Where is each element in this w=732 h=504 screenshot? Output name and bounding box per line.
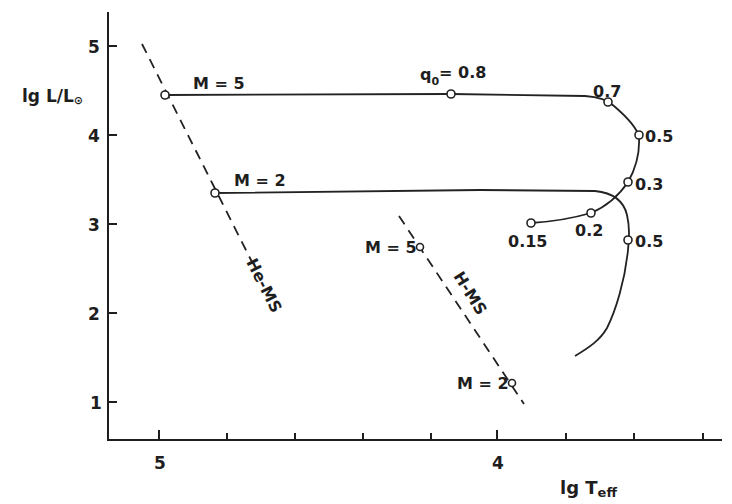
label-q0-08: q0= 0.8 bbox=[420, 63, 486, 88]
track-m5 bbox=[165, 94, 639, 223]
label-q0-03: 0.3 bbox=[635, 175, 663, 194]
point-q0-03 bbox=[624, 178, 632, 186]
x-axis-title: lg Teff bbox=[560, 477, 617, 500]
label-h-m5: M = 5 bbox=[365, 238, 417, 257]
x-tick-label-5: 5 bbox=[154, 453, 166, 473]
hr-diagram: 5 4 3 2 1 5 4 lg L/L⊙ lg Teff He-MS H-MS… bbox=[0, 0, 732, 504]
point-q0-02 bbox=[587, 209, 595, 217]
label-q0-02: 0.2 bbox=[575, 221, 603, 240]
y-tick-label-2: 2 bbox=[88, 304, 100, 324]
point-he-m5 bbox=[161, 91, 169, 99]
he-ms-label: He-MS bbox=[242, 255, 285, 316]
y-tick-label-3: 3 bbox=[88, 215, 100, 235]
label-q0-07: 0.7 bbox=[593, 82, 621, 101]
point-he-m2 bbox=[211, 189, 219, 197]
point-q0-015 bbox=[527, 219, 535, 227]
point-q0-05-upper bbox=[635, 131, 643, 139]
point-h-m2 bbox=[509, 380, 516, 387]
label-q0-015: 0.15 bbox=[508, 232, 547, 251]
sun-symbol-icon: ⊙ bbox=[74, 94, 83, 107]
y-axis-title: lg L/L⊙ bbox=[22, 86, 83, 107]
label-h-m2: M = 2 bbox=[457, 374, 509, 393]
q0-value: = 0.8 bbox=[439, 63, 486, 82]
x-axis-title-main: lg T bbox=[560, 477, 598, 498]
point-q0-08 bbox=[447, 90, 455, 98]
label-q0-05-lower: 0.5 bbox=[635, 232, 663, 251]
point-q0-05-lower bbox=[624, 236, 632, 244]
y-tick-label-5: 5 bbox=[88, 37, 100, 57]
x-axis-title-sub: eff bbox=[598, 485, 618, 500]
point-h-m5 bbox=[417, 244, 424, 251]
y-tick-label-1: 1 bbox=[90, 393, 102, 413]
y-tick-label-4: 4 bbox=[88, 126, 100, 146]
x-tick-label-4: 4 bbox=[492, 453, 504, 473]
y-axis-title-main: lg L/L bbox=[22, 86, 74, 106]
label-he-m5: M = 5 bbox=[193, 74, 245, 93]
label-q0-05-upper: 0.5 bbox=[645, 127, 673, 146]
track-m2 bbox=[215, 190, 629, 356]
h-ms-label: H-MS bbox=[450, 268, 491, 318]
q0-q: q bbox=[420, 65, 431, 84]
label-he-m2: M = 2 bbox=[234, 171, 286, 190]
